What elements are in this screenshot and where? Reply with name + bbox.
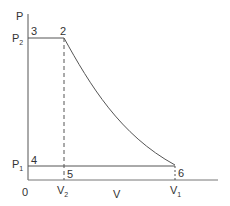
y-axis-label: P: [16, 10, 23, 22]
p1-label: P1: [12, 158, 23, 172]
origin-label: 0: [22, 186, 28, 198]
point-6-label: 6: [178, 167, 184, 179]
curve-2-6: [64, 38, 175, 165]
point-4-label: 4: [31, 154, 37, 166]
v2-label: V2: [57, 184, 68, 198]
point-5-label: 5: [67, 168, 73, 180]
point-3-label: 3: [31, 25, 37, 37]
point-2-label: 2: [60, 25, 66, 37]
p2-label: P2: [12, 32, 23, 46]
pv-diagram: P V 0 P2 P1 V2 V1 3 2 4 5 6: [0, 0, 230, 206]
x-axis-label: V: [113, 188, 121, 200]
v1-label: V1: [170, 184, 181, 198]
